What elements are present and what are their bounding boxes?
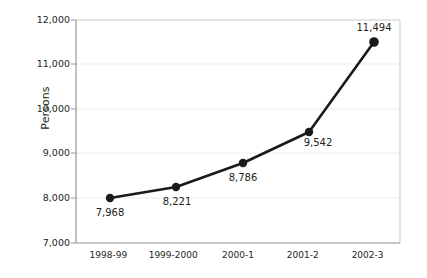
y-axis-ticks xyxy=(71,20,76,243)
data-value-label: 8,786 xyxy=(213,172,273,184)
x-tick-label: 1999-2000 xyxy=(141,249,206,263)
x-tick-label: 2000-1 xyxy=(206,249,271,263)
x-tick-label: 2002-3 xyxy=(335,249,400,263)
x-tick-label: 1998-99 xyxy=(76,249,141,263)
data-value-label: 8,221 xyxy=(147,196,207,208)
data-value-label: 11,494 xyxy=(344,22,404,34)
x-axis-tick-labels: 1998-99 1999-2000 2000-1 2001-2 2002-3 xyxy=(76,249,400,263)
data-point-marker xyxy=(172,183,180,191)
data-value-label: 9,542 xyxy=(288,137,348,149)
data-point-marker xyxy=(305,128,313,136)
data-value-label: 7,968 xyxy=(80,207,140,219)
line-chart: Persons 12,000 11,000 10,000 9,000 8,000… xyxy=(0,0,427,278)
plot-area xyxy=(0,0,427,278)
data-point-marker xyxy=(369,37,379,47)
x-tick-label: 2001-2 xyxy=(270,249,335,263)
data-point-marker xyxy=(106,194,114,202)
data-point-marker xyxy=(239,159,247,167)
